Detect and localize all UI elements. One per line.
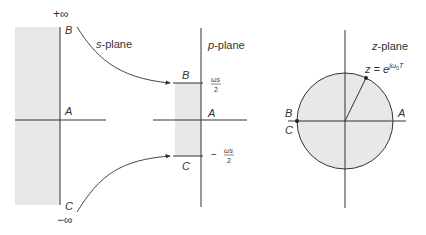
svg-text:2: 2 [227,157,231,164]
s-plane-plus-infinity: +∞ [53,7,69,21]
p-plane-lower-label: − ωs 2 [211,147,234,164]
z-plane-point-C: C [285,124,293,136]
s-plane-point-B: B [65,24,72,36]
s-plane-left-half-shade [15,27,60,205]
z-point-dot [364,76,368,80]
mapping-curve-upper [77,27,170,83]
s-plane: +∞ B A C −∞ s-plane [15,7,132,227]
z-point-BC-dot [295,119,299,123]
p-plane-point-A: A [207,107,215,119]
svg-text:2: 2 [214,86,218,93]
p-plane-point-B: B [182,69,189,81]
svg-text:ωs: ωs [224,147,233,154]
z-plane-point-A: A [397,107,405,119]
z-plane-equation: z = ejω0T [364,62,404,75]
p-plane-point-C: C [182,160,190,172]
z-plane-title: z-plane [371,40,408,52]
s-plane-point-A: A [64,105,72,117]
s-plane-point-C: C [65,200,73,212]
p-plane-upper-label: ωs 2 [211,76,221,93]
p-plane-title: p-plane [207,39,245,51]
z-plane: z-plane z = ejω0T B C A [285,30,408,208]
mapping-curve-lower [77,156,170,212]
s-plane-title: s-plane [96,38,132,50]
svg-text:−: − [211,149,217,160]
svg-text:ωs: ωs [211,76,220,83]
s-plane-minus-infinity: −∞ [57,213,73,227]
z-plane-point-B: B [285,107,292,119]
mapping-diagram: +∞ B A C −∞ s-plane p-plane B A C ωs 2 −… [0,0,426,235]
p-plane: p-plane B A C ωs 2 − ωs 2 [153,28,247,207]
